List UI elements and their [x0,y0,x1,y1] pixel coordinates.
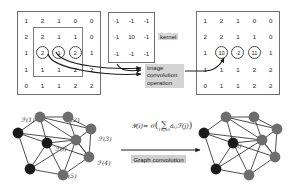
graph-node [71,135,82,146]
graph-node [63,112,74,123]
graph-edge [216,140,262,169]
figure-canvas: 1210022110121211112201122 -1-1-1-110-1-1… [0,0,291,191]
graph-node [244,170,255,181]
graph-edge [63,140,76,175]
graph-node [35,112,46,123]
output-graph [199,112,283,181]
graph-node [249,112,260,123]
graph-node [199,128,210,139]
graph-node [13,128,24,139]
diagram-overlay [0,0,291,191]
arrow-window-to-operation-2 [56,52,141,68]
graph-node [86,124,97,135]
graph-node [42,138,53,149]
graph-node [270,152,281,163]
graph-edge [30,140,76,169]
graph-edge [204,133,216,169]
input-graph [13,112,97,181]
arrow-window-to-operation-1 [48,54,141,74]
graph-node [272,124,283,135]
graph-node [25,164,36,175]
graph-node [58,170,69,181]
graph-edge [18,133,30,169]
graph-node [257,135,268,146]
graph-node [221,112,232,123]
arrow-kernel-to-operation [117,64,141,71]
graph-node [84,152,95,163]
arrow-operation-to-output [185,58,224,71]
graph-node [228,138,239,149]
graph-node [211,164,222,175]
graph-edge [249,140,262,175]
